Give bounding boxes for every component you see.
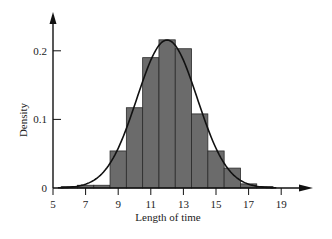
- x-tick-label: 7: [83, 198, 89, 210]
- histogram-chart: 00.10.2 5791113151719 Length of time Den…: [0, 0, 332, 239]
- histogram-bar: [208, 151, 224, 188]
- histogram-bar: [143, 58, 159, 188]
- y-tick-label: 0.2: [33, 45, 47, 57]
- y-tick-label: 0: [42, 182, 48, 194]
- x-tick-label: 15: [211, 198, 223, 210]
- x-tick-label: 9: [115, 198, 121, 210]
- x-tick-label: 13: [178, 198, 190, 210]
- x-tick-label: 17: [243, 198, 255, 210]
- histogram-bars: [61, 40, 273, 188]
- y-axis-title: Density: [17, 102, 29, 137]
- x-tick-label: 5: [50, 198, 56, 210]
- histogram-bar: [175, 49, 191, 188]
- x-ticks: 5791113151719: [50, 188, 287, 210]
- x-tick-label: 19: [276, 198, 288, 210]
- histogram-bar: [159, 40, 175, 188]
- y-axis-arrow-icon: [50, 12, 57, 24]
- y-ticks: 00.10.2: [33, 45, 61, 194]
- x-axis-arrow-icon: [299, 185, 313, 192]
- histogram-bar: [192, 114, 208, 188]
- y-axis: [50, 12, 57, 188]
- x-tick-label: 11: [146, 198, 157, 210]
- x-axis-title: Length of time: [135, 211, 200, 223]
- y-tick-label: 0.1: [33, 113, 47, 125]
- histogram-bar: [110, 151, 126, 188]
